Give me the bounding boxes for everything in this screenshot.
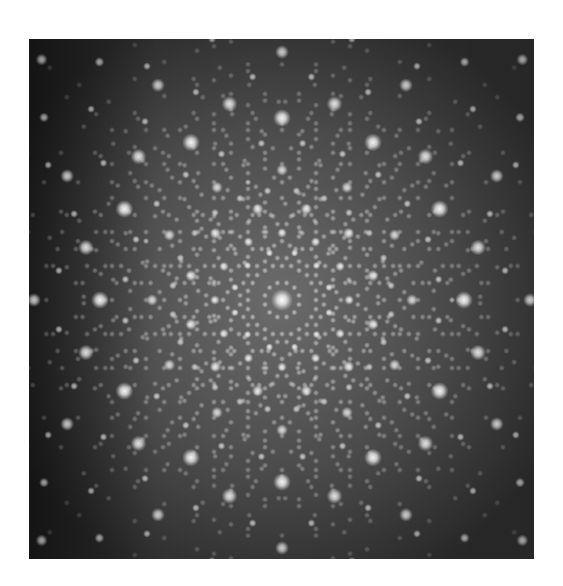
diffraction-spot bbox=[313, 390, 319, 396]
diffraction-spot bbox=[449, 356, 455, 362]
diffraction-spot bbox=[245, 272, 251, 278]
diffraction-spot bbox=[466, 444, 472, 450]
diffraction-spot bbox=[483, 179, 489, 185]
diffraction-spot bbox=[276, 424, 288, 436]
diffraction-spot bbox=[143, 467, 149, 473]
diffraction-spot bbox=[203, 233, 209, 239]
diffraction-spot bbox=[333, 305, 339, 311]
diffraction-spot bbox=[313, 306, 319, 312]
diffraction-spot bbox=[358, 382, 364, 388]
diffraction-spot bbox=[115, 182, 121, 188]
diffraction-spot bbox=[279, 179, 285, 185]
diffraction-spot bbox=[477, 294, 483, 300]
diffraction-spot bbox=[494, 330, 500, 336]
diffraction-spot bbox=[426, 552, 432, 558]
diffraction-spot bbox=[245, 68, 251, 74]
diffraction-spot bbox=[200, 212, 206, 218]
diffraction-spot bbox=[161, 535, 167, 541]
diffraction-spot bbox=[514, 263, 520, 269]
diffraction-spot bbox=[342, 339, 348, 345]
diffraction-spot bbox=[211, 145, 217, 151]
diffraction-spot bbox=[115, 411, 121, 417]
diffraction-spot bbox=[503, 348, 509, 354]
diffraction-spot bbox=[218, 150, 226, 158]
diffraction-spot bbox=[47, 529, 53, 535]
diffraction-spot bbox=[347, 245, 353, 251]
diffraction-spot bbox=[64, 330, 70, 336]
diffraction-spot bbox=[283, 221, 289, 227]
diffraction-spot bbox=[317, 314, 323, 320]
diffraction-spot bbox=[501, 267, 509, 275]
diffraction-spot bbox=[253, 184, 259, 190]
diffraction-spot bbox=[449, 179, 455, 185]
diffraction-spot bbox=[452, 495, 458, 501]
diffraction-spot bbox=[296, 224, 302, 230]
diffraction-spot bbox=[376, 314, 382, 320]
diffraction-spot bbox=[288, 331, 294, 337]
diffraction-spot bbox=[211, 313, 217, 319]
diffraction-spot bbox=[387, 310, 395, 318]
diffraction-spot bbox=[409, 182, 415, 188]
diffraction-spot bbox=[485, 280, 491, 286]
diffraction-spot bbox=[195, 424, 201, 430]
diffraction-spot bbox=[392, 212, 398, 218]
diffraction-spot bbox=[296, 444, 302, 450]
diffraction-spot bbox=[262, 199, 268, 205]
diffraction-spot bbox=[443, 411, 449, 417]
diffraction-spot bbox=[296, 156, 302, 162]
diffraction-spot bbox=[347, 433, 353, 439]
diffraction-spot bbox=[376, 196, 382, 202]
diffraction-spot bbox=[389, 419, 395, 425]
diffraction-spot bbox=[343, 361, 355, 373]
diffraction-spot bbox=[211, 279, 217, 285]
diffraction-spot bbox=[397, 59, 403, 65]
diffraction-spot bbox=[211, 517, 217, 523]
diffraction-spot bbox=[249, 450, 255, 456]
diffraction-spot bbox=[333, 289, 339, 295]
diffraction-spot bbox=[305, 116, 311, 122]
diffraction-spot bbox=[192, 504, 200, 512]
diffraction-spot bbox=[449, 415, 455, 421]
diffraction-spot bbox=[259, 348, 265, 354]
diffraction-spot bbox=[182, 449, 200, 467]
diffraction-spot bbox=[93, 111, 99, 117]
diffraction-spot bbox=[109, 415, 115, 421]
diffraction-spot bbox=[313, 229, 319, 235]
diffraction-spot bbox=[389, 229, 401, 241]
diffraction-spot bbox=[93, 247, 99, 253]
diffraction-spot bbox=[376, 162, 382, 168]
diffraction-spot bbox=[397, 161, 403, 167]
diffraction-spot bbox=[274, 314, 280, 320]
diffraction-spot bbox=[296, 394, 302, 400]
diffraction-spot bbox=[426, 314, 432, 320]
diffraction-spot bbox=[347, 399, 353, 405]
diffraction-spot bbox=[347, 77, 353, 83]
diffraction-spot bbox=[338, 161, 344, 167]
diffraction-spot bbox=[452, 99, 458, 105]
diffraction-spot bbox=[397, 433, 403, 439]
diffraction-spot bbox=[109, 331, 115, 337]
diffraction-spot bbox=[313, 170, 319, 176]
diffraction-spot bbox=[211, 383, 219, 391]
diffraction-spot bbox=[185, 318, 197, 330]
diffraction-spot bbox=[494, 500, 500, 506]
diffraction-spot bbox=[177, 229, 183, 235]
diffraction-spot bbox=[435, 275, 443, 283]
diffraction-spot bbox=[355, 292, 361, 298]
diffraction-spot bbox=[406, 145, 412, 151]
diffraction-spot bbox=[398, 209, 404, 215]
diffraction-spot bbox=[143, 365, 149, 371]
diffraction-spot bbox=[211, 111, 217, 117]
diffraction-spot bbox=[322, 263, 328, 269]
diffraction-spot bbox=[109, 433, 115, 439]
diffraction-spot bbox=[73, 280, 79, 286]
diffraction-spot bbox=[296, 335, 302, 341]
diffraction-spot bbox=[457, 433, 465, 441]
diffraction-spot bbox=[347, 551, 353, 557]
diffraction-spot bbox=[220, 297, 226, 303]
diffraction-spot bbox=[313, 474, 319, 480]
diffraction-spot bbox=[299, 139, 307, 147]
diffraction-spot bbox=[228, 277, 234, 283]
diffraction-spot bbox=[118, 263, 124, 269]
diffraction-spot bbox=[313, 331, 321, 339]
